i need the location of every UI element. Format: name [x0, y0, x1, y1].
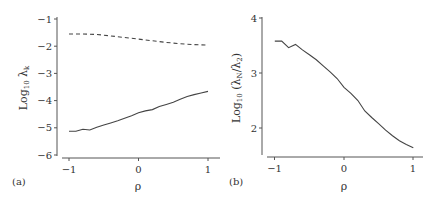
panel-b-x-ticks: −1 0 1	[267, 157, 416, 174]
panel-b-ytick: 3	[251, 68, 257, 79]
panel-b-ytick: 2	[251, 123, 257, 134]
panel-b-xtick: −1	[267, 163, 282, 174]
panel-b-xtick: 1	[410, 163, 416, 174]
panel-a-dashed-line	[69, 34, 208, 45]
panel-a-ytick: −1	[37, 14, 52, 25]
panel-b-xlabel: ρ	[341, 180, 347, 193]
panel-a-label: (a)	[12, 176, 26, 187]
panel-b: 4 3 2 −1 0 1 ρ Log10 (λN/λ2) (b)	[229, 13, 423, 194]
panel-a-y-ticks: −1 −2 −3 −4 −5 −6	[37, 14, 57, 161]
panel-a-xtick: 1	[205, 164, 211, 175]
panel-a-ytick: −5	[37, 122, 52, 133]
panel-a-ylabel: Log10 λk	[17, 65, 31, 110]
panel-a: −1 −2 −3 −4 −5 −6 −1 0 1 ρ Log10 λk (a)	[12, 14, 220, 194]
panel-a-xtick: 0	[135, 164, 141, 175]
panel-a-ytick: −3	[37, 68, 52, 79]
panel-a-ytick: −6	[37, 150, 52, 161]
panel-a-ytick: −4	[37, 95, 52, 106]
panel-b-ytick: 4	[251, 13, 257, 24]
panel-b-solid-line	[275, 41, 414, 148]
panel-a-ytick: −2	[37, 41, 52, 52]
figure: −1 −2 −3 −4 −5 −6 −1 0 1 ρ Log10 λk (a)	[0, 0, 439, 204]
panel-a-xtick: −1	[62, 164, 77, 175]
panel-a-xlabel: ρ	[135, 180, 141, 193]
panel-b-label: (b)	[229, 176, 243, 187]
panel-b-xtick: 0	[341, 163, 347, 174]
panel-b-ylabel: Log10 (λN/λ2)	[230, 53, 244, 123]
panel-a-x-ticks: −1 0 1	[62, 158, 212, 175]
panel-a-solid-line	[69, 91, 208, 131]
panel-b-y-ticks: 4 3 2	[251, 13, 262, 134]
